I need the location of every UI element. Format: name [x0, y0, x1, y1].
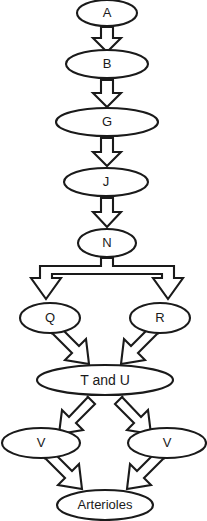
- connector-a-to-b: [93, 27, 121, 52]
- flowchart-canvas: A B G J N Q R T and U: [0, 0, 207, 521]
- node-b[interactable]: B: [66, 50, 148, 78]
- block-arrow-down-icon: [93, 80, 121, 107]
- node-v-right-label: V: [163, 435, 172, 450]
- node-q-label: Q: [45, 310, 55, 325]
- node-g[interactable]: G: [56, 108, 158, 136]
- node-a-label: A: [103, 5, 112, 20]
- connector-n-to-q-r: [31, 258, 183, 299]
- block-arrow-down-icon: [93, 138, 121, 166]
- node-q[interactable]: Q: [20, 303, 80, 333]
- connector-tu-to-v2: [115, 396, 151, 434]
- connector-b-to-g: [93, 80, 121, 107]
- node-n-label: N: [102, 235, 111, 250]
- node-v-left-label: V: [37, 435, 46, 450]
- node-j-label: J: [103, 174, 110, 189]
- node-t-and-u-label: T and U: [80, 372, 130, 388]
- node-t-and-u[interactable]: T and U: [37, 365, 173, 395]
- node-b-label: B: [103, 56, 112, 71]
- block-arrow-diagonal-icon: [115, 396, 151, 434]
- node-n[interactable]: N: [78, 229, 136, 257]
- node-j[interactable]: J: [64, 168, 148, 196]
- node-arterioles[interactable]: Arterioles: [57, 490, 153, 520]
- connector-tu-to-v1: [59, 396, 95, 434]
- node-r[interactable]: R: [130, 303, 190, 333]
- node-r-label: R: [155, 310, 164, 325]
- node-g-label: G: [102, 114, 112, 129]
- block-arrow-diagonal-icon: [59, 396, 95, 434]
- block-arrow-down-icon: [93, 27, 121, 52]
- block-arrow-down-icon: [93, 198, 121, 227]
- node-a[interactable]: A: [77, 0, 137, 26]
- node-arterioles-label: Arterioles: [78, 497, 133, 512]
- flowchart-diagram: A B G J N Q R T and U: [0, 0, 207, 521]
- connector-j-to-n: [93, 198, 121, 227]
- block-fork-split-icon: [31, 258, 183, 299]
- node-v-left[interactable]: V: [2, 428, 80, 458]
- connector-g-to-j: [93, 138, 121, 166]
- node-v-right[interactable]: V: [128, 428, 206, 458]
